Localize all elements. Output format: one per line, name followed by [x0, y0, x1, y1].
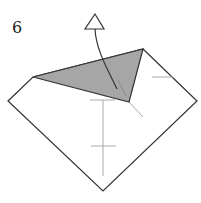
arrow-head-icon — [85, 14, 104, 29]
origami-diagram — [0, 0, 201, 203]
